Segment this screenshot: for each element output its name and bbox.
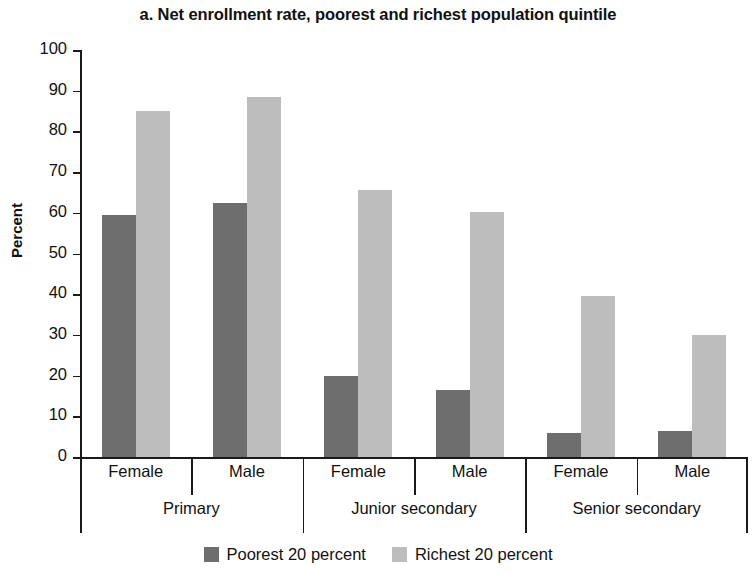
legend-swatch-poorest: [204, 547, 219, 562]
y-axis-tick-label: 80: [49, 120, 67, 139]
y-axis-tick-label: 70: [49, 161, 67, 180]
bar-poorest: [436, 390, 470, 457]
y-axis-tick: 10: [73, 416, 80, 418]
plot-area: 1009080706050403020100: [80, 50, 748, 457]
x-axis-sex-label: Female: [525, 462, 636, 481]
y-axis-tick-label: 100: [39, 39, 67, 58]
legend-swatch-richest: [392, 547, 407, 562]
bar-poorest: [658, 431, 692, 457]
x-axis-sex-label: Male: [637, 462, 748, 481]
x-axis-level-label: Primary: [80, 499, 303, 518]
legend-label: Poorest 20 percent: [227, 545, 366, 564]
y-axis-tick: 50: [73, 254, 80, 256]
chart-legend: Poorest 20 percentRichest 20 percent: [0, 545, 756, 564]
y-axis-tick: 30: [73, 335, 80, 337]
band-divider: [746, 458, 748, 533]
y-axis-tick: 20: [73, 376, 80, 378]
chart-figure: a. Net enrollment rate, poorest and rich…: [0, 0, 756, 573]
x-axis-sex-label: Female: [303, 462, 414, 481]
x-axis-sex-label: Female: [80, 462, 191, 481]
x-axis-level-label: Junior secondary: [303, 499, 526, 518]
y-axis-tick: 0: [73, 457, 80, 459]
y-axis-line: [80, 50, 82, 457]
legend-item: Poorest 20 percent: [204, 545, 366, 564]
legend-label: Richest 20 percent: [415, 545, 553, 564]
bar-richest: [581, 296, 615, 457]
y-axis-tick-label: 20: [49, 365, 67, 384]
y-axis-tick: 70: [73, 172, 80, 174]
y-axis-tick: 60: [73, 213, 80, 215]
chart-title: a. Net enrollment rate, poorest and rich…: [0, 5, 756, 24]
bar-poorest: [102, 215, 136, 457]
bar-richest: [136, 111, 170, 457]
x-axis-label-band: FemaleMaleFemaleMaleFemaleMalePrimaryJun…: [80, 458, 748, 533]
y-axis-tick-label: 40: [49, 283, 67, 302]
y-axis-tick-label: 0: [58, 446, 67, 465]
y-axis-tick: 80: [73, 131, 80, 133]
x-axis-sex-label: Male: [414, 462, 525, 481]
x-axis-level-label: Senior secondary: [525, 499, 748, 518]
bar-poorest: [547, 433, 581, 457]
y-axis-tick: 40: [73, 294, 80, 296]
bar-poorest: [213, 203, 247, 457]
y-axis-tick-label: 30: [49, 324, 67, 343]
y-axis-tick: 90: [73, 91, 80, 93]
y-axis-tick-label: 90: [49, 80, 67, 99]
y-axis-tick-label: 50: [49, 243, 67, 262]
x-axis-sex-label: Male: [191, 462, 302, 481]
legend-item: Richest 20 percent: [392, 545, 553, 564]
bar-richest: [247, 97, 281, 457]
y-axis-tick: 100: [73, 50, 80, 52]
y-axis-tick-label: 10: [49, 405, 67, 424]
bar-richest: [358, 190, 392, 457]
y-axis-title: Percent: [8, 191, 25, 271]
bar-poorest: [324, 376, 358, 457]
y-axis-tick-label: 60: [49, 202, 67, 221]
bar-richest: [470, 212, 504, 457]
bar-richest: [692, 335, 726, 457]
